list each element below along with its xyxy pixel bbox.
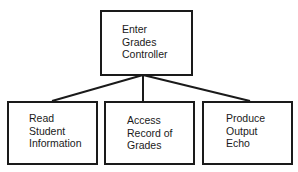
- node-access-record-of-grades: Access Record of Grades: [104, 101, 195, 165]
- node-label: Enter Grades Controller: [122, 23, 168, 61]
- node-read-student-information: Read Student Information: [7, 101, 98, 165]
- node-label: Read Student Information: [29, 112, 82, 150]
- node-enter-grades-controller: Enter Grades Controller: [100, 10, 193, 76]
- structure-chart-diagram: Enter Grades Controller Read Student Inf…: [0, 0, 298, 172]
- edge-root-to-produce: [143, 75, 250, 101]
- node-label: Produce Output Echo: [226, 112, 265, 150]
- node-produce-output-echo: Produce Output Echo: [202, 101, 293, 165]
- edge-root-to-read: [52, 75, 143, 101]
- node-label: Access Record of Grades: [127, 114, 173, 152]
